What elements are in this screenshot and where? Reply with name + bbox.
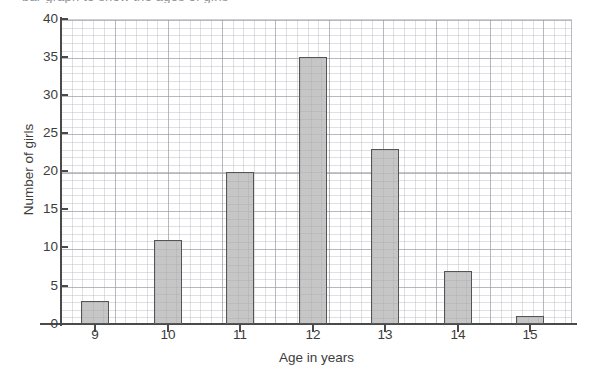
y-axis-tick-0: 0 [8, 317, 58, 331]
x-axis-tick-11: 11 [220, 327, 260, 342]
y-axis-tick-label: 35 [16, 50, 58, 64]
x-axis-tick-label: 14 [438, 327, 478, 342]
bar-age-13 [371, 149, 399, 324]
y-axis-tick-mark [61, 94, 68, 96]
y-axis-tick-5: 5 [8, 279, 58, 293]
y-axis-tick-mark [61, 208, 68, 210]
x-axis-tick-15: 15 [510, 327, 550, 342]
bar-age-10 [154, 240, 182, 324]
x-axis-tick-13: 13 [365, 327, 405, 342]
x-axis-tick-label: 13 [365, 327, 405, 342]
y-axis-tick-label: 5 [16, 279, 58, 293]
bar-age-12 [299, 57, 327, 324]
y-axis-tick-35: 35 [8, 50, 58, 64]
bar-age-15 [516, 316, 544, 324]
x-axis-tick-label: 11 [220, 327, 260, 342]
y-axis-tick-mark [61, 132, 68, 134]
x-axis-tick-9: 9 [75, 327, 115, 342]
x-axis-tick-label: 15 [510, 327, 550, 342]
x-axis-tick-14: 14 [438, 327, 478, 342]
bar-chart: bar graph to show the ages of girls 40 3… [0, 0, 589, 376]
y-axis-tick-mark [61, 285, 68, 287]
y-axis-tick-mark [61, 323, 68, 325]
y-axis-tick-mark [61, 56, 68, 58]
chart-title-remnant: bar graph to show the ages of girls [22, 0, 322, 3]
bar-age-9 [81, 301, 109, 324]
bar-age-14 [444, 271, 472, 324]
y-axis-tick-40: 40 [8, 12, 58, 26]
y-axis-title: Number of girls [21, 70, 36, 270]
y-axis-tick-label: 0 [16, 317, 58, 331]
y-axis-tick-mark [61, 18, 68, 20]
x-axis-tick-12: 12 [293, 327, 333, 342]
x-axis-tick-10: 10 [148, 327, 188, 342]
x-axis-title: Age in years [61, 350, 572, 365]
y-axis-tick-mark [61, 170, 68, 172]
x-axis-tick-label: 12 [293, 327, 333, 342]
y-axis-tick-mark [61, 246, 68, 248]
bar-age-11 [226, 172, 254, 325]
x-axis-tick-label: 10 [148, 327, 188, 342]
x-axis-tick-label: 9 [75, 327, 115, 342]
y-axis-tick-label: 40 [16, 12, 58, 26]
